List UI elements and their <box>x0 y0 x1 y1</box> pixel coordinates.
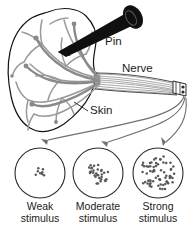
impulse-dot <box>89 164 92 167</box>
panel-label-line2: stimulus <box>139 212 178 224</box>
impulse-dot <box>153 158 156 161</box>
impulse-dot <box>146 182 149 185</box>
impulse-dot <box>37 167 40 170</box>
impulse-dot <box>97 168 100 171</box>
label-skin: Skin <box>90 104 112 116</box>
impulse-dot <box>152 180 155 183</box>
impulse-dot <box>42 168 45 171</box>
impulse-dot <box>157 163 160 166</box>
impulse-dot <box>161 188 164 191</box>
impulse-dot <box>162 161 165 164</box>
impulse-dot <box>170 168 173 171</box>
impulse-dot <box>37 170 40 173</box>
impulse-dot <box>155 177 158 180</box>
impulse-dot <box>146 172 149 175</box>
label-pin: Pin <box>105 35 122 47</box>
impulse-dot <box>164 188 167 191</box>
impulse-dot <box>141 171 144 174</box>
impulse-dot <box>164 183 167 186</box>
impulse-dot <box>165 162 168 165</box>
impulse-dot <box>152 166 155 169</box>
impulse-dot <box>162 155 165 158</box>
impulse-dot <box>101 173 104 176</box>
impulse-dot <box>103 172 106 175</box>
impulse-dot <box>149 182 152 185</box>
panel-circle <box>133 148 183 198</box>
impulse-dot <box>159 158 162 161</box>
impulse-dot <box>160 169 163 172</box>
stimulus-panel-strong: Strongstimulus <box>133 148 183 224</box>
impulse-dot <box>149 165 152 168</box>
impulse-dot <box>99 180 102 183</box>
impulse-dot <box>39 172 42 175</box>
panel-label-line1: Strong <box>143 200 174 212</box>
impulse-dot <box>88 166 91 169</box>
impulse-dot <box>164 176 167 179</box>
impulse-dot <box>93 165 96 168</box>
impulse-dot <box>155 165 158 168</box>
impulse-dot <box>90 170 93 173</box>
impulse-dot <box>95 172 98 175</box>
impulse-dot <box>100 178 103 181</box>
impulse-dot <box>100 176 103 179</box>
panel-circle <box>73 148 123 198</box>
impulse-dot <box>157 184 160 187</box>
pin-stimulus-figure: Pin Nerve Skin WeakstimulusModeratestimu… <box>0 0 194 228</box>
impulse-dot <box>149 179 152 182</box>
impulse-dot <box>168 177 171 180</box>
impulse-dot <box>91 166 94 169</box>
impulse-dot <box>95 182 98 185</box>
panel-label-line1: Moderate <box>76 200 121 212</box>
impulse-dot <box>143 165 146 168</box>
impulse-dot <box>148 185 151 188</box>
impulse-dot <box>149 170 152 173</box>
impulse-dot <box>169 162 172 165</box>
nerve-terminal <box>173 81 186 96</box>
impulse-dot <box>92 169 95 172</box>
impulse-dot <box>93 174 96 177</box>
label-nerve: Nerve <box>122 62 153 74</box>
impulse-dot <box>100 170 103 173</box>
impulse-dot <box>159 187 162 190</box>
impulse-dot <box>97 164 100 167</box>
impulse-dot <box>173 173 176 176</box>
impulse-dot <box>172 165 175 168</box>
panel-label-line2: stimulus <box>21 212 60 224</box>
impulse-dot <box>104 179 107 182</box>
impulse-dot <box>149 162 152 165</box>
impulse-dot <box>159 183 162 186</box>
impulse-dot <box>107 171 110 174</box>
impulse-dot <box>34 174 37 177</box>
impulse-dot <box>142 182 145 185</box>
impulse-dot <box>151 170 154 173</box>
impulse-dot <box>171 181 174 184</box>
stimulus-panel-weak: Weakstimulus <box>15 148 65 224</box>
impulse-dot <box>163 171 166 174</box>
impulse-dot <box>167 182 170 185</box>
stimulus-panels: WeakstimulusModeratestimulusStrongstimul… <box>15 148 183 224</box>
figure-canvas: Pin Nerve Skin WeakstimulusModeratestimu… <box>0 0 194 228</box>
panel-label-line2: stimulus <box>79 212 118 224</box>
panel-label-line1: Weak <box>27 200 54 212</box>
impulse-dot <box>142 162 145 165</box>
impulse-dot <box>159 179 162 182</box>
stimulus-panel-moderate: Moderatestimulus <box>73 148 123 224</box>
impulse-dot <box>157 175 160 178</box>
impulse-dot <box>145 165 148 168</box>
